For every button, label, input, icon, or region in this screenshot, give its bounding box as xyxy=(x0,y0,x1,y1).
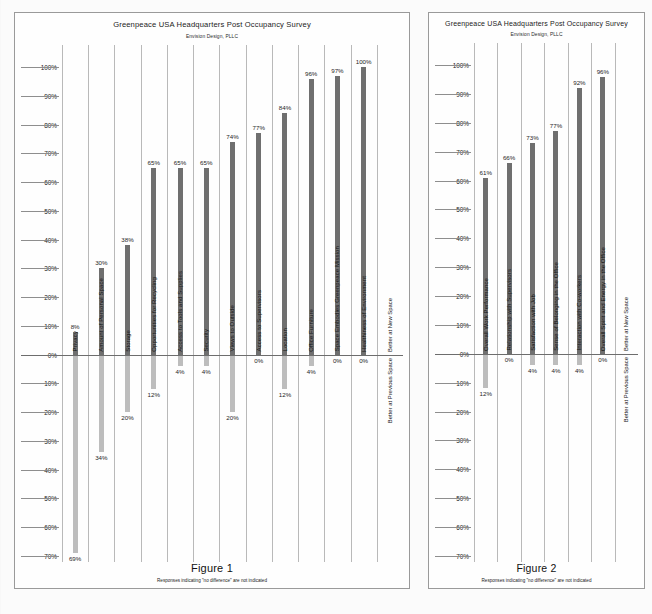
category-label: Views to Outside xyxy=(229,305,235,352)
chart-subtitle: Envision Design, PLLC xyxy=(429,32,644,37)
bar-value-label-positive: 97% xyxy=(331,67,343,74)
bar-value-label-positive: 8% xyxy=(71,323,80,330)
category-separator xyxy=(544,43,545,562)
category-label: Space Embodies Greenpeace Mission xyxy=(334,246,340,351)
category-slot: 97%0%Space Embodies Greenpeace Mission xyxy=(324,45,350,562)
category-label: Amount of Personal Space xyxy=(98,278,104,352)
bar-value-label-positive: 74% xyxy=(226,133,238,140)
bar-value-label-negative: 0% xyxy=(254,357,263,364)
category-label: Overall Spirit and Energy in the Office xyxy=(600,247,606,351)
chart-subtitle: Envision Design, PLLC xyxy=(15,34,409,39)
bar-value-label-negative: 4% xyxy=(528,367,537,374)
y-axis-gridline xyxy=(435,556,471,557)
category-label: Sense of Belonging in the Office xyxy=(553,262,559,351)
figure-label: Figure 2 xyxy=(429,562,644,574)
y-axis-gridline xyxy=(21,326,59,327)
category-label: Overall Work Performance xyxy=(483,278,489,351)
category-separator xyxy=(114,45,115,562)
y-axis-gridline xyxy=(435,412,471,413)
bar-value-label-negative: 20% xyxy=(121,414,133,421)
category-separator xyxy=(298,45,299,562)
category-slot: 8%69%Privacy xyxy=(62,45,88,562)
category-label: Office Furniture xyxy=(308,309,314,352)
y-axis-gridline xyxy=(435,498,471,499)
category-separator xyxy=(568,43,569,562)
figure-1-bars: 8%69%Privacy30%34%Amount of Personal Spa… xyxy=(62,45,403,562)
category-slot: 96%0%Overall Spirit and Energy in the Of… xyxy=(591,43,614,562)
bar-negative xyxy=(577,354,582,366)
chart-title: Greenpeace USA Headquarters Post Occupan… xyxy=(15,20,409,29)
y-axis-gridline xyxy=(21,67,59,68)
y-axis-gridline xyxy=(21,527,59,528)
lower-axis-direction-label: Better at Previous Space xyxy=(387,358,393,423)
category-separator xyxy=(62,45,63,562)
category-label: Storage xyxy=(125,330,131,352)
category-separator xyxy=(591,43,592,562)
category-label: Interaction with Co-workers xyxy=(576,275,582,350)
category-slot: 77%4%Sense of Belonging in the Office xyxy=(544,43,567,562)
category-separator xyxy=(88,45,89,562)
category-slot: 38%20%Storage xyxy=(114,45,140,562)
category-label: Access to Tools and Supplies xyxy=(177,271,183,352)
figure-2-plot-area: 0%10%20%30%40%50%60%70%80%90%100%10%20%3… xyxy=(429,43,644,562)
bar-value-label-positive: 65% xyxy=(148,159,160,166)
y-axis-gridline xyxy=(21,96,59,97)
bar-negative xyxy=(309,355,314,367)
bar-positive xyxy=(204,168,209,355)
y-axis-gridline xyxy=(435,296,471,297)
bar-value-label-positive: 96% xyxy=(597,68,609,75)
category-slot: 30%34%Amount of Personal Space xyxy=(88,45,114,562)
bar-negative xyxy=(151,355,156,390)
y-axis-gridline xyxy=(435,94,471,95)
bar-value-label-negative: 4% xyxy=(202,368,211,375)
bar-value-label-positive: 30% xyxy=(95,259,107,266)
bar-value-label-positive: 61% xyxy=(480,169,492,176)
category-separator xyxy=(497,43,498,562)
bar-value-label-negative: 12% xyxy=(480,390,492,397)
bar-value-label-negative: 0% xyxy=(505,356,514,363)
category-slot: 84%12%Location xyxy=(272,45,298,562)
bar-negative xyxy=(483,354,488,389)
bar-value-label-positive: 100% xyxy=(356,58,372,65)
bar-value-label-negative: 4% xyxy=(307,368,316,375)
y-axis-gridline xyxy=(21,297,59,298)
category-label: Security xyxy=(203,329,209,351)
axis-direction-slot: Better at New SpaceBetter at Previous Sp… xyxy=(615,43,638,562)
bar-value-label-positive: 73% xyxy=(526,134,538,141)
bar-value-label-positive: 66% xyxy=(503,154,515,161)
zero-baseline xyxy=(435,354,638,355)
category-label: Opportunities for Recycling xyxy=(151,277,157,352)
figure-2-bars: 61%12%Overall Work Performance66%0%Relat… xyxy=(474,43,638,562)
y-axis-gridline xyxy=(21,441,59,442)
bar-negative xyxy=(204,355,209,367)
category-slot: 92%4%Interaction with Co-workers xyxy=(568,43,591,562)
y-axis-gridline xyxy=(21,412,59,413)
figure-1-panel: Greenpeace USA Headquarters Post Occupan… xyxy=(14,12,410,589)
y-axis-gridline xyxy=(435,325,471,326)
category-separator xyxy=(521,43,522,562)
bar-value-label-positive: 96% xyxy=(305,70,317,77)
category-separator xyxy=(219,45,220,562)
category-slot: 73%4%Satisfaction with Job xyxy=(521,43,544,562)
bar-value-label-negative: 4% xyxy=(176,368,185,375)
category-separator xyxy=(615,43,616,562)
figure-2-panel: Greenpeace USA Headquarters Post Occupan… xyxy=(428,12,645,589)
bar-value-label-negative: 4% xyxy=(552,367,561,374)
y-axis-gridline xyxy=(21,383,59,384)
bar-negative xyxy=(230,355,235,413)
bar-value-label-positive: 92% xyxy=(573,79,585,86)
category-separator xyxy=(246,45,247,562)
bar-value-label-negative: 12% xyxy=(279,391,291,398)
y-axis-gridline xyxy=(435,238,471,239)
figure-footnote: Responses indicating "no difference" are… xyxy=(429,578,644,583)
bar-negative xyxy=(99,355,104,453)
y-axis-gridline xyxy=(21,240,59,241)
bar-value-label-negative: 34% xyxy=(95,454,107,461)
category-slot: 65%4%Security xyxy=(193,45,219,562)
upper-axis-direction-label: Better at New Space xyxy=(387,298,393,352)
y-axis-gridline xyxy=(435,209,471,210)
y-axis-gridline xyxy=(21,182,59,183)
category-separator xyxy=(193,45,194,562)
category-slot: 61%12%Overall Work Performance xyxy=(474,43,497,562)
bar-positive xyxy=(282,113,287,355)
